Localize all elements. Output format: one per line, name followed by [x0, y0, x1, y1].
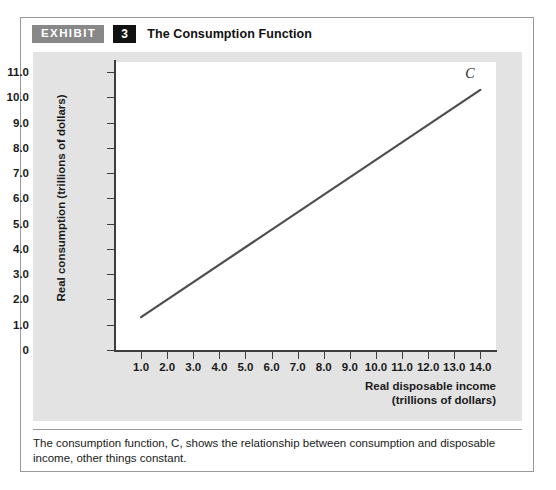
exhibit-tag-label: EXHIBIT — [32, 25, 104, 43]
curve-label-c: C — [465, 66, 474, 82]
y-axis-tick-label: 5.0 — [0, 219, 29, 231]
y-axis-tick-label: 0 — [0, 345, 29, 357]
y-axis-title: Real consumption (trillions of dollars) — [55, 93, 67, 303]
exhibit-header: EXHIBIT 3 The Consumption Function — [21, 18, 533, 50]
exhibit-caption: The consumption function, C, shows the r… — [33, 436, 518, 466]
exhibit-title: The Consumption Function — [147, 27, 312, 41]
y-axis-tick-label: 2.0 — [0, 294, 29, 306]
x-axis-title: Real disposable income (trillions of dol… — [213, 379, 496, 407]
exhibit-card: EXHIBIT 3 The Consumption Function 01.02… — [20, 17, 534, 472]
figure-panel: 01.02.03.04.05.06.07.08.09.010.011.0 1.0… — [33, 52, 522, 421]
x-axis-title-units: (trillions of dollars) — [392, 394, 496, 406]
y-axis-tick-label: 7.0 — [0, 168, 29, 180]
x-axis-title-main: Real disposable income — [365, 380, 496, 392]
y-axis-tick-label: 11.0 — [0, 67, 29, 79]
y-axis-tick-label: 8.0 — [0, 143, 29, 155]
caption-divider — [33, 429, 522, 430]
consumption-function-curve — [33, 52, 522, 421]
y-axis-tick-label: 4.0 — [0, 244, 29, 256]
y-axis-tick-label: 10.0 — [0, 92, 29, 104]
exhibit-number-badge: 3 — [113, 25, 136, 43]
y-axis-tick-label: 9.0 — [0, 118, 29, 130]
y-axis-tick-label: 3.0 — [0, 269, 29, 281]
y-axis-tick-label: 6.0 — [0, 193, 29, 205]
y-axis-tick-label: 1.0 — [0, 320, 29, 332]
